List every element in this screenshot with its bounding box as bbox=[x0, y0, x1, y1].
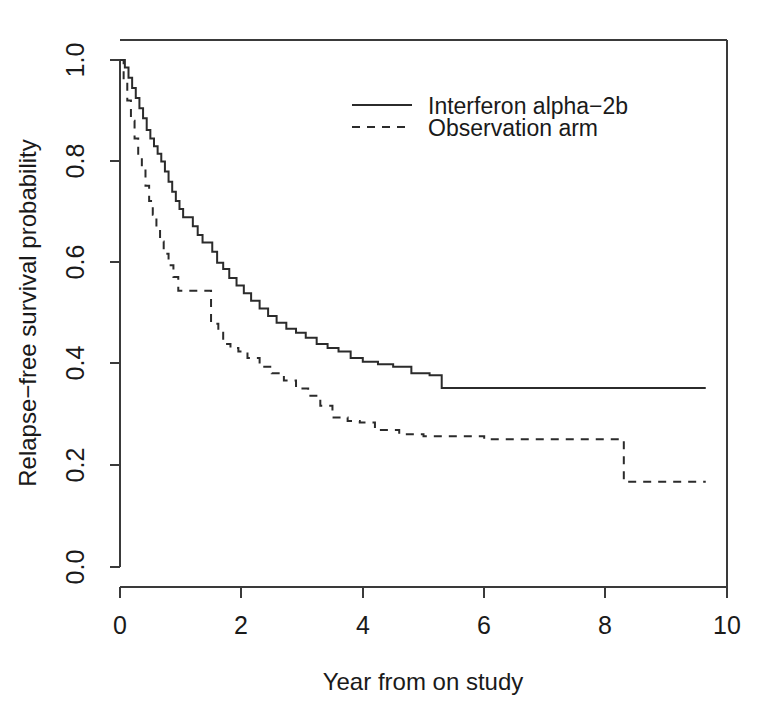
y-axis-tick-labels: 1.0 0.8 0.6 0.4 0.2 0.0 bbox=[61, 43, 89, 585]
x-axis-ticks bbox=[120, 587, 727, 598]
y-tick-label-0.4: 0.4 bbox=[61, 346, 89, 381]
y-tick-label-0.0: 0.0 bbox=[61, 550, 89, 585]
x-tick-label-0: 0 bbox=[113, 611, 127, 639]
x-tick-label-6: 6 bbox=[477, 611, 491, 639]
kaplan-meier-figure: 1.0 0.8 0.6 0.4 0.2 0.0 0 2 4 6 8 10 Yea… bbox=[0, 0, 760, 711]
legend-label-observation-arm: Observation arm bbox=[428, 115, 598, 141]
y-axis-title: Relapse−free survival probability bbox=[14, 139, 41, 487]
chart-legend: Interferon alpha−2b Observation arm bbox=[352, 93, 628, 141]
y-tick-label-1.0: 1.0 bbox=[61, 43, 89, 78]
series-line-observation-arm bbox=[120, 60, 706, 482]
data-curves bbox=[120, 60, 706, 482]
y-axis-ticks bbox=[110, 60, 120, 567]
plot-frame bbox=[120, 40, 727, 587]
x-tick-label-8: 8 bbox=[598, 611, 612, 639]
x-tick-label-10: 10 bbox=[713, 611, 741, 639]
x-tick-label-2: 2 bbox=[234, 611, 248, 639]
y-tick-label-0.8: 0.8 bbox=[61, 144, 89, 179]
chart-svg: 1.0 0.8 0.6 0.4 0.2 0.0 0 2 4 6 8 10 Yea… bbox=[0, 0, 760, 711]
y-tick-label-0.2: 0.2 bbox=[61, 448, 89, 483]
y-tick-label-0.6: 0.6 bbox=[61, 245, 89, 280]
x-axis-tick-labels: 0 2 4 6 8 10 bbox=[113, 611, 741, 639]
x-tick-label-4: 4 bbox=[356, 611, 370, 639]
x-axis-title: Year from on study bbox=[323, 668, 524, 695]
